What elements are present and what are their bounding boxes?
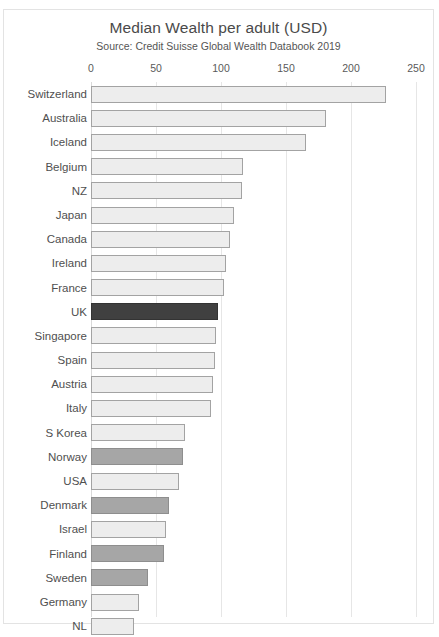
category-label-finland: Finland: [49, 542, 87, 566]
bar-s-korea: [91, 424, 185, 441]
bar-belgium: [91, 158, 243, 175]
bar-track: [91, 493, 416, 517]
category-label-nz: NZ: [72, 179, 87, 203]
bar-denmark: [91, 497, 169, 514]
x-tick-label-250: 250: [407, 62, 425, 74]
bar-row: France: [4, 276, 435, 300]
x-tick-label-200: 200: [342, 62, 360, 74]
bar-nz: [91, 182, 242, 199]
bar-track: [91, 203, 416, 227]
category-label-s-korea: S Korea: [45, 421, 87, 445]
bar-singapore: [91, 327, 216, 344]
bar-row: Germany: [4, 590, 435, 614]
category-label-usa: USA: [63, 469, 87, 493]
category-label-norway: Norway: [48, 445, 87, 469]
bar-row: Italy: [4, 396, 435, 420]
category-label-canada: Canada: [47, 227, 87, 251]
bar-row: Ireland: [4, 251, 435, 275]
x-tick-label-100: 100: [212, 62, 230, 74]
bar-row: Iceland: [4, 130, 435, 154]
bar-row: Australia: [4, 106, 435, 130]
bar-track: [91, 251, 416, 275]
bar-track: [91, 396, 416, 420]
bar-track: [91, 469, 416, 493]
bar-row: NL: [4, 614, 435, 637]
category-label-ireland: Ireland: [52, 251, 87, 275]
bar-track: [91, 348, 416, 372]
bar-usa: [91, 473, 179, 490]
category-label-japan: Japan: [56, 203, 87, 227]
bar-sweden: [91, 569, 148, 586]
bar-spain: [91, 352, 215, 369]
bar-track: [91, 566, 416, 590]
x-axis-tick-labels: 050100150200250: [91, 62, 416, 78]
bar-track: [91, 517, 416, 541]
bar-track: [91, 300, 416, 324]
chart-frame: Median Wealth per adult (USD) Source: Cr…: [3, 9, 434, 624]
category-label-nl: NL: [72, 614, 87, 637]
page-title: Median Wealth per adult (USD): [4, 18, 433, 37]
bar-israel: [91, 521, 166, 538]
category-label-denmark: Denmark: [40, 493, 87, 517]
category-label-singapore: Singapore: [35, 324, 87, 348]
bar-track: [91, 421, 416, 445]
bar-row: S Korea: [4, 421, 435, 445]
bar-switzerland: [91, 86, 386, 103]
bar-track: [91, 324, 416, 348]
bar-row: USA: [4, 469, 435, 493]
x-tick-label-50: 50: [150, 62, 162, 74]
bar-track: [91, 106, 416, 130]
bar-france: [91, 279, 224, 296]
bar-row: Singapore: [4, 324, 435, 348]
bar-row: Belgium: [4, 155, 435, 179]
bar-track: [91, 276, 416, 300]
bar-row: Denmark: [4, 493, 435, 517]
bar-row: NZ: [4, 179, 435, 203]
bar-track: [91, 227, 416, 251]
bar-finland: [91, 545, 164, 562]
bar-austria: [91, 376, 213, 393]
bar-ireland: [91, 255, 226, 272]
bar-track: [91, 130, 416, 154]
bar-track: [91, 590, 416, 614]
category-label-israel: Israel: [59, 517, 87, 541]
bar-nl: [91, 618, 134, 635]
x-tick-label-0: 0: [88, 62, 94, 74]
bar-row: Canada: [4, 227, 435, 251]
bar-rows: SwitzerlandAustraliaIcelandBelgiumNZJapa…: [4, 82, 435, 637]
category-label-austria: Austria: [51, 372, 87, 396]
chart-source-subtitle: Source: Credit Suisse Global Wealth Data…: [4, 39, 433, 53]
bar-row: UK: [4, 300, 435, 324]
bar-germany: [91, 594, 139, 611]
bar-japan: [91, 207, 234, 224]
bar-italy: [91, 400, 211, 417]
bar-row: Spain: [4, 348, 435, 372]
category-label-switzerland: Switzerland: [28, 82, 87, 106]
chart-title-block: Median Wealth per adult (USD) Source: Cr…: [4, 18, 433, 53]
category-label-sweden: Sweden: [45, 566, 87, 590]
bar-track: [91, 155, 416, 179]
x-tick-label-150: 150: [277, 62, 295, 74]
category-label-italy: Italy: [66, 396, 87, 420]
category-label-germany: Germany: [40, 590, 87, 614]
category-label-belgium: Belgium: [45, 155, 87, 179]
bar-australia: [91, 110, 326, 127]
bar-uk: [91, 303, 218, 320]
bar-track: [91, 82, 416, 106]
bar-row: Japan: [4, 203, 435, 227]
bar-row: Norway: [4, 445, 435, 469]
category-label-france: France: [51, 276, 87, 300]
bar-track: [91, 614, 416, 637]
bar-track: [91, 372, 416, 396]
bar-row: Austria: [4, 372, 435, 396]
category-label-spain: Spain: [58, 348, 87, 372]
bar-norway: [91, 448, 183, 465]
category-label-uk: UK: [71, 300, 87, 324]
bar-row: Switzerland: [4, 82, 435, 106]
category-label-iceland: Iceland: [50, 130, 87, 154]
bar-track: [91, 542, 416, 566]
bar-track: [91, 445, 416, 469]
bar-iceland: [91, 134, 306, 151]
bar-track: [91, 179, 416, 203]
bar-row: Sweden: [4, 566, 435, 590]
